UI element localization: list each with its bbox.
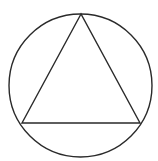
inscribed-triangle-diagram <box>0 0 158 161</box>
circumscribed-circle <box>9 14 152 157</box>
inscribed-triangle <box>22 14 140 123</box>
